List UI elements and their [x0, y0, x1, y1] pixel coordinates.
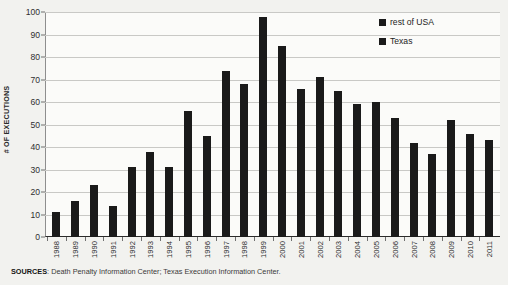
chart-legend: rest of USA Texas: [379, 17, 434, 46]
bar-slot: [348, 12, 367, 237]
x-axis-tick-label: 2003: [334, 241, 343, 258]
x-axis-slot: 1995: [179, 237, 198, 259]
x-axis-tick-label: 1998: [240, 241, 249, 258]
bar: [222, 71, 230, 238]
x-axis-tick-label: 2007: [409, 241, 418, 258]
x-axis-tick-mark: [404, 237, 405, 241]
bar-slot: [479, 12, 498, 237]
x-axis-tick-label: 1999: [259, 241, 268, 258]
x-axis-tick-mark: [461, 237, 462, 241]
bar-slot: [66, 12, 85, 237]
legend-swatch-icon: [379, 19, 386, 26]
bar-slot: [461, 12, 480, 237]
x-axis-slot: 2002: [310, 237, 329, 259]
bar: [203, 136, 211, 237]
x-axis-tick-mark: [216, 237, 217, 241]
x-axis-tick-mark: [479, 237, 480, 241]
x-axis-slot: 1997: [216, 237, 235, 259]
x-axis-slot: 1992: [122, 237, 141, 259]
x-axis-tick-label: 1991: [108, 241, 117, 258]
bar-slot: [160, 12, 179, 237]
bar-slot: [291, 12, 310, 237]
x-axis-tick-label: 2005: [371, 241, 380, 258]
x-axis-tick-mark: [423, 237, 424, 241]
x-axis-slot: 2006: [385, 237, 404, 259]
bar-slot: [197, 12, 216, 237]
x-axis-slot: 1996: [197, 237, 216, 259]
bar: [259, 17, 267, 238]
x-axis-tick-mark: [103, 237, 104, 241]
x-axis-tick-label: 1990: [89, 241, 98, 258]
bar: [447, 120, 455, 237]
legend-label: Texas: [390, 36, 412, 46]
bar: [297, 89, 305, 238]
bar-slot: [254, 12, 273, 237]
legend-swatch-icon: [379, 38, 386, 45]
bar: [410, 143, 418, 238]
x-axis-slot: 2008: [423, 237, 442, 259]
legend-item-texas: Texas: [379, 36, 434, 46]
bar: [128, 167, 136, 237]
bar-slot: [329, 12, 348, 237]
bar: [428, 154, 436, 237]
x-axis-tick-label: 1993: [146, 241, 155, 258]
x-axis-tick-mark: [367, 237, 368, 241]
bar: [334, 91, 342, 237]
x-axis-slot: 2003: [329, 237, 348, 259]
x-axis-slot: 2004: [348, 237, 367, 259]
bar: [109, 206, 117, 238]
y-axis-title: # OF EXECUTIONS: [0, 0, 14, 238]
bar-slot: [442, 12, 461, 237]
bar: [146, 152, 154, 238]
x-axis-slot: 2000: [273, 237, 292, 259]
x-axis-tick-label: 2010: [465, 241, 474, 258]
x-axis-tick-mark: [273, 237, 274, 241]
x-axis-labels: 1988198919901991199219931994199519961997…: [45, 237, 500, 259]
bar: [485, 140, 493, 237]
x-axis-slot: 1994: [160, 237, 179, 259]
x-axis-tick-mark: [385, 237, 386, 241]
x-axis-tick-mark: [235, 237, 236, 241]
x-axis-tick-label: 1994: [165, 241, 174, 258]
x-axis-tick-mark: [310, 237, 311, 241]
x-axis-slot: 1998: [235, 237, 254, 259]
x-axis-tick-mark: [122, 237, 123, 241]
x-axis-tick-mark: [291, 237, 292, 241]
x-axis-tick-label: 1996: [202, 241, 211, 258]
bar: [71, 201, 79, 237]
x-axis-tick-mark: [160, 237, 161, 241]
x-axis-tick-label: 1995: [183, 241, 192, 258]
x-axis-tick-mark: [254, 237, 255, 241]
x-axis-tick-mark: [179, 237, 180, 241]
bar-slot: [85, 12, 104, 237]
x-axis-tick-label: 2008: [428, 241, 437, 258]
x-axis-slot: 2011: [479, 237, 498, 259]
x-axis-tick-mark: [66, 237, 67, 241]
bar: [466, 134, 474, 238]
x-axis-tick-mark: [47, 237, 48, 241]
x-axis-slot: 1991: [103, 237, 122, 259]
x-axis-tick-label: 2006: [390, 241, 399, 258]
bar-slot: [179, 12, 198, 237]
x-axis-slot: 1988: [47, 237, 66, 259]
bar-slot: [235, 12, 254, 237]
sources-note: SOURCES: Death Penalty Information Cente…: [11, 267, 281, 276]
x-axis-tick-label: 2009: [447, 241, 456, 258]
x-axis-slot: 2005: [367, 237, 386, 259]
x-axis-slot: 1990: [85, 237, 104, 259]
x-axis-slot: 2009: [442, 237, 461, 259]
x-axis-tick-label: 2004: [353, 241, 362, 258]
bar-slot: [310, 12, 329, 237]
x-axis-tick-label: 2001: [296, 241, 305, 258]
x-axis-tick-label: 1992: [127, 241, 136, 258]
x-axis-tick-mark: [348, 237, 349, 241]
sources-label: SOURCES: [11, 267, 47, 276]
x-axis-tick-label: 1997: [221, 241, 230, 258]
x-axis-slot: 1999: [254, 237, 273, 259]
bar: [391, 118, 399, 237]
bar: [372, 102, 380, 237]
x-axis-tick-label: 1989: [71, 241, 80, 258]
x-axis-slot: 1993: [141, 237, 160, 259]
y-axis-title-text: # OF EXECUTIONS: [3, 85, 12, 153]
bar: [90, 185, 98, 237]
